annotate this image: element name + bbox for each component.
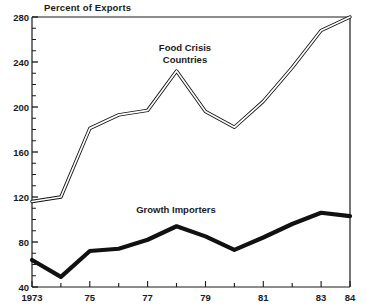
annotation-growth-importers: Growth Importers (136, 204, 216, 215)
y-tick-label-80: 80 (18, 237, 29, 248)
chart-plot-area: 280 240 200 160 120 80 40 1973 75 77 79 … (0, 0, 366, 307)
series-line-growth-importers (32, 213, 350, 277)
x-tick-label-1973: 1973 (21, 292, 42, 303)
x-tick-label-83: 83 (316, 292, 327, 303)
y-tick-label-120: 120 (13, 192, 29, 203)
y-tick-label-160: 160 (13, 147, 29, 158)
x-tick-label-77: 77 (142, 292, 153, 303)
annotation-food-crisis-line2: Countries (163, 54, 207, 65)
y-tick-label-200: 200 (13, 102, 29, 113)
x-tick-label-79: 79 (200, 292, 211, 303)
annotation-food-crisis-line1: Food Crisis (159, 42, 211, 53)
y-tick-label-280: 280 (13, 12, 29, 23)
x-axis-ticks (32, 281, 350, 287)
x-tick-label-84: 84 (345, 292, 356, 303)
chart-figure: Percent of Exports (0, 0, 366, 307)
y-tick-label-240: 240 (13, 57, 29, 68)
y-axis-major-ticks (32, 17, 38, 287)
x-tick-label-75: 75 (85, 292, 96, 303)
x-tick-label-81: 81 (258, 292, 269, 303)
y-tick-label-40: 40 (18, 282, 29, 293)
